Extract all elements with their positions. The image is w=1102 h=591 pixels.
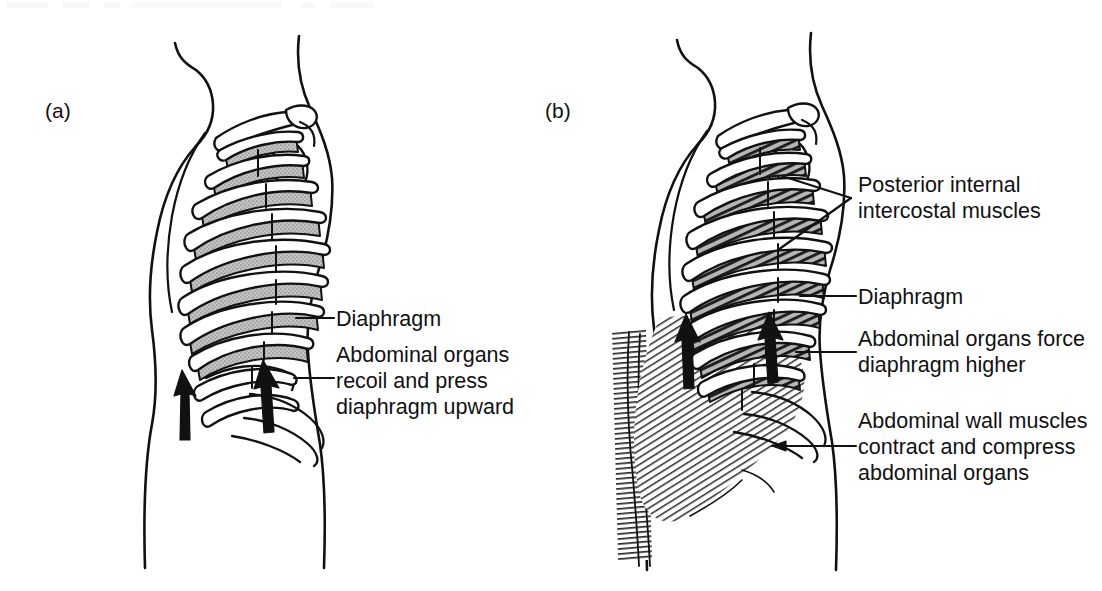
callout-abdominal-recoil-line1: Abdominal organs	[336, 343, 509, 367]
callout-diaphragm-b: Diaphragm	[858, 285, 963, 309]
callout-abdominal-wall-line1: Abdominal wall muscles	[858, 409, 1087, 433]
panel-b-tag: (b)	[545, 99, 571, 122]
callout-abdominal-wall-line3: abdominal organs	[858, 461, 1029, 485]
callout-abdominal-force-line1: Abdominal organs force	[858, 327, 1085, 351]
callout-abdominal-wall-line2: contract and compress	[858, 435, 1076, 459]
respiration-figure: (a)	[0, 0, 1102, 591]
callout-abdominal-recoil-line3: diaphragm upward	[336, 395, 514, 419]
callout-abdominal-recoil-line2: recoil and press	[336, 369, 488, 393]
callout-posterior-intercostals-line2: intercostal muscles	[858, 199, 1041, 223]
panel-a-tag: (a)	[45, 99, 71, 122]
callout-posterior-intercostals-line1: Posterior internal	[858, 173, 1021, 197]
callout-abdominal-force-line2: diaphragm higher	[858, 353, 1025, 377]
callout-diaphragm-a: Diaphragm	[336, 307, 441, 331]
